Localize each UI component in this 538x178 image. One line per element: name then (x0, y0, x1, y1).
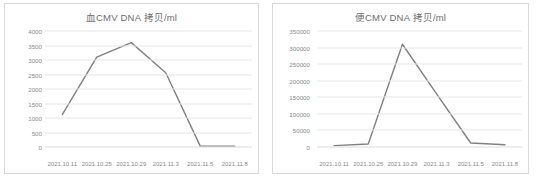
y-axis-tick-label: 2500 (28, 71, 42, 78)
x-axis-tick-label: 2021.10.11 (319, 161, 349, 167)
plot-wrap: 05001000150020002500300035004000 2021.10… (5, 25, 258, 159)
series-line (317, 25, 522, 159)
gridline (45, 60, 252, 61)
plot-area (317, 25, 522, 159)
y-axis-tick-label: 3000 (28, 57, 42, 64)
y-axis-tick-label: 300000 (289, 44, 310, 51)
x-axis-tick-label: 2021.11.8 (492, 161, 518, 167)
gridline (317, 147, 522, 148)
y-axis-tick-label: 150000 (289, 94, 310, 101)
gridline (45, 89, 252, 90)
gridline (45, 45, 252, 46)
x-axis-tick-label: 2021.11.3 (423, 161, 449, 167)
gridline (317, 47, 522, 48)
x-axis-tick-label: 2021.11.8 (222, 161, 248, 167)
y-axis-tick-label: 2000 (28, 86, 42, 93)
x-axis-tick-label: 2021.11.3 (153, 161, 179, 167)
gridline (317, 80, 522, 81)
x-axis-tick-label: 2021.10.29 (116, 161, 146, 167)
plot-wrap: 0500001000001500002000002500003000003500… (273, 25, 528, 159)
y-axis-tick-label: 200000 (289, 77, 310, 84)
gridline (45, 132, 252, 133)
gridline (45, 118, 252, 119)
chart-pair-screenshot: 血CMV DNA 拷贝/ml 0500100015002000250030003… (0, 0, 538, 178)
y-axis-tick-label: 350000 (289, 28, 310, 35)
gridline (45, 31, 252, 32)
y-axis-tick-label: 0 (307, 144, 310, 151)
gridline (45, 103, 252, 104)
x-axis-tick-label: 2021.10.11 (47, 161, 77, 167)
y-axis-tick-label: 1000 (28, 115, 42, 122)
x-axis-tick-label: 2021.10.25 (82, 161, 112, 167)
y-axis-tick-label: 1500 (28, 100, 42, 107)
gridline (317, 31, 522, 32)
data-series-polyline (62, 43, 235, 147)
y-axis-tick-label: 4000 (28, 28, 42, 35)
gridline (317, 64, 522, 65)
y-axis: 05001000150020002500300035004000 (5, 25, 45, 159)
x-axis-tick-label: 2021.10.25 (353, 161, 383, 167)
y-axis-tick-label: 250000 (289, 61, 310, 68)
chart-card-stool-cmv-dna: 便CMV DNA 拷贝/ml 0500001000001500002000002… (272, 3, 529, 174)
plot-area (45, 25, 252, 159)
y-axis-tick-label: 100000 (289, 110, 310, 117)
y-axis-tick-label: 0 (39, 144, 42, 151)
gridline (317, 113, 522, 114)
gridline (317, 130, 522, 131)
x-axis: 2021.10.112021.10.252021.10.292021.11.32… (45, 159, 252, 174)
x-axis-tick-label: 2021.11.5 (187, 161, 213, 167)
y-axis-tick-label: 50000 (293, 127, 310, 134)
x-axis-tick-label: 2021.11.5 (458, 161, 484, 167)
chart-title: 血CMV DNA 拷贝/ml (5, 4, 258, 25)
chart-card-blood-cmv-dna: 血CMV DNA 拷贝/ml 0500100015002000250030003… (4, 3, 259, 174)
gridline (45, 147, 252, 148)
gridline (317, 97, 522, 98)
y-axis: 0500001000001500002000002500003000003500… (273, 25, 313, 159)
chart-title: 便CMV DNA 拷贝/ml (273, 4, 528, 25)
x-axis-tick-label: 2021.10.29 (387, 161, 417, 167)
y-axis-tick-label: 3500 (28, 42, 42, 49)
gridline (45, 74, 252, 75)
x-axis: 2021.10.112021.10.252021.10.292021.11.32… (317, 159, 522, 174)
y-axis-tick-label: 500 (32, 129, 42, 136)
